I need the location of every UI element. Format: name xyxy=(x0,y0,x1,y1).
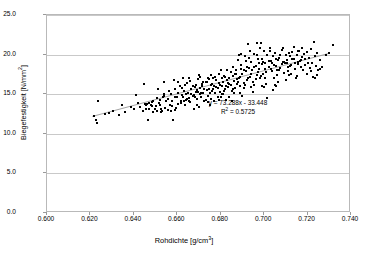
data-point xyxy=(224,76,226,78)
data-point xyxy=(259,77,261,79)
data-point xyxy=(212,77,214,79)
data-point xyxy=(148,102,150,104)
data-point xyxy=(239,85,241,87)
y-axis-title: Biegefestigkeit [N/mm2] xyxy=(19,28,28,178)
data-point xyxy=(264,62,266,64)
data-point xyxy=(220,69,222,71)
x-axis-title-base: Rohdichte [g/cm xyxy=(155,236,208,245)
x-tick-label: 0.640 xyxy=(113,215,153,223)
data-point xyxy=(308,57,310,59)
data-point xyxy=(288,52,290,54)
data-point xyxy=(244,84,246,86)
data-point xyxy=(208,88,210,90)
data-point xyxy=(222,81,224,83)
data-point xyxy=(233,92,235,94)
data-point xyxy=(279,54,281,56)
data-point xyxy=(188,77,190,79)
data-point xyxy=(256,42,258,44)
data-point xyxy=(227,86,229,88)
data-point xyxy=(332,44,334,46)
data-point xyxy=(133,108,135,110)
data-point xyxy=(239,76,241,78)
data-point xyxy=(265,71,267,73)
y-tick-label: 25.0 xyxy=(0,10,16,17)
data-point xyxy=(228,77,230,79)
data-point xyxy=(262,61,264,63)
data-point xyxy=(273,77,275,79)
data-point xyxy=(252,91,254,93)
data-point xyxy=(248,67,250,69)
data-point xyxy=(269,47,271,49)
data-point xyxy=(285,54,287,56)
data-point xyxy=(210,74,212,76)
data-point xyxy=(156,110,158,112)
data-point xyxy=(304,58,306,60)
data-point xyxy=(237,59,239,61)
data-point xyxy=(187,92,189,94)
data-point xyxy=(281,63,283,65)
data-point xyxy=(301,47,303,49)
data-point xyxy=(159,99,161,101)
data-point xyxy=(163,93,165,95)
x-tick-mark xyxy=(89,212,90,215)
data-point xyxy=(207,77,209,79)
data-point xyxy=(255,78,257,80)
data-point xyxy=(243,69,245,71)
data-point xyxy=(223,90,225,92)
data-point xyxy=(232,88,234,90)
data-point xyxy=(247,77,249,79)
data-point xyxy=(272,89,274,91)
data-point xyxy=(143,83,145,85)
data-point xyxy=(152,100,154,102)
data-point xyxy=(93,115,95,117)
data-point xyxy=(171,100,173,102)
x-tick-mark xyxy=(350,212,351,215)
data-point xyxy=(211,90,213,92)
data-point xyxy=(124,111,126,113)
data-point xyxy=(203,88,205,90)
data-point xyxy=(283,72,285,74)
data-point xyxy=(259,47,261,49)
data-point xyxy=(152,111,154,113)
data-point xyxy=(202,92,204,94)
data-point xyxy=(250,61,252,63)
data-point xyxy=(316,74,318,76)
data-point xyxy=(311,62,313,64)
data-point xyxy=(147,119,149,121)
data-point xyxy=(148,108,150,110)
data-point xyxy=(275,85,277,87)
data-point xyxy=(174,109,176,111)
data-point xyxy=(236,78,238,80)
data-point xyxy=(160,111,162,113)
data-point xyxy=(219,84,221,86)
data-point xyxy=(221,77,223,79)
data-point xyxy=(207,95,209,97)
data-point xyxy=(319,59,321,61)
data-point xyxy=(294,62,296,64)
x-axis-title-tail: ] xyxy=(211,236,213,245)
data-point xyxy=(286,62,288,64)
data-point xyxy=(189,80,191,82)
data-point xyxy=(190,93,192,95)
x-tick-label: 0.620 xyxy=(69,215,109,223)
data-point xyxy=(194,86,196,88)
data-point xyxy=(206,81,208,83)
data-point xyxy=(167,98,169,100)
data-point xyxy=(248,57,250,59)
y-axis-title-exponent: 2 xyxy=(17,67,23,70)
data-point xyxy=(108,112,110,114)
data-point xyxy=(234,87,236,89)
data-point xyxy=(239,92,241,94)
data-point xyxy=(275,65,277,67)
data-point xyxy=(309,67,311,69)
data-point xyxy=(247,43,249,45)
data-point xyxy=(271,62,273,64)
data-point xyxy=(256,54,258,56)
data-point xyxy=(236,83,238,85)
data-point xyxy=(200,92,202,94)
data-point xyxy=(245,70,247,72)
data-point xyxy=(301,56,303,58)
data-point xyxy=(304,64,306,66)
data-point xyxy=(142,110,144,112)
data-point xyxy=(243,87,245,89)
